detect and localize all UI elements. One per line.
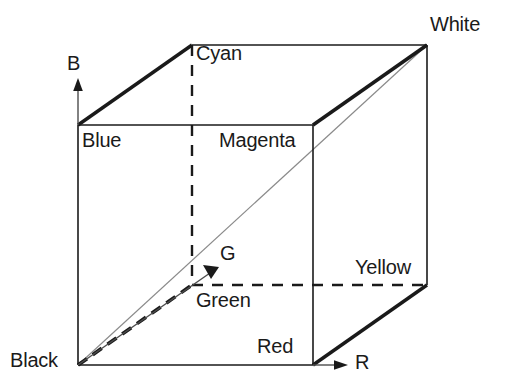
axis-label-g: G [220,243,235,263]
vertex-label-magenta: Magenta [219,130,295,150]
vertex-label-blue: Blue [82,130,121,150]
axis-line-g [78,273,210,365]
arrow-up-icon [73,78,83,91]
edge-blue-cyan [78,45,192,125]
edge-black-white-diagonal [78,45,427,365]
rgb-color-cube-diagram: White Cyan Blue Magenta Yellow Green Red… [0,0,514,388]
vertex-label-white: White [430,14,480,34]
edge-magenta-white [313,45,427,125]
axis-label-b: B [67,53,80,73]
axis-label-r: R [355,352,369,372]
vertex-label-cyan: Cyan [196,43,242,63]
vertex-label-black: Black [10,350,58,370]
vertex-label-red: Red [257,336,293,356]
arrow-right-icon [334,360,348,370]
vertex-label-yellow: Yellow [355,257,411,277]
edge-red-yellow [313,285,427,365]
vertex-label-green: Green [196,290,251,310]
